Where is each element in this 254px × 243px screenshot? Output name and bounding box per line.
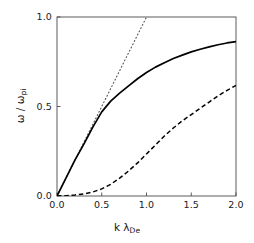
x-axis-title: k λDe — [0, 221, 254, 235]
x-tick-label: 1.0 — [132, 199, 162, 210]
axes-frame — [57, 17, 236, 196]
x-tick-label: 0.5 — [87, 199, 117, 210]
y-tick-label: 1.0 — [28, 11, 52, 22]
x-tick-label: 1.5 — [176, 199, 206, 210]
figure-canvas: 0.00.51.01.52.0 0.00.51.0 k λDe ω / ωpi — [0, 0, 254, 243]
y-axis-title: ω / ωpi — [14, 89, 28, 124]
x-tick-label: 2.0 — [221, 199, 251, 210]
y-axis-title-wrapper: ω / ωpi — [9, 41, 27, 171]
y-tick-label: 0.0 — [28, 190, 52, 201]
y-tick-label: 0.5 — [28, 101, 52, 112]
chart-plot-area — [0, 0, 254, 243]
